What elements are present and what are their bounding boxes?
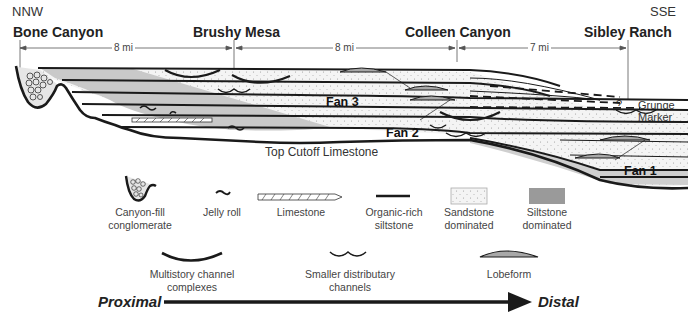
legend-lobeform: Lobeform [476, 268, 542, 281]
canyon-fill-icon [126, 176, 156, 200]
limestone-icon [258, 194, 342, 200]
distance-label-2: 8 mi [333, 42, 356, 53]
grunge-marker-line1: Grunge [638, 99, 675, 111]
legend-canyon-fill-line2: conglomerate [100, 219, 180, 232]
uncertain-mark: ? [616, 98, 622, 110]
location-brushy-mesa: Brushy Mesa [193, 24, 280, 40]
multistory-channel-icon [162, 253, 222, 261]
limestone-bed [132, 118, 212, 122]
distance-label-3: 7 mi [528, 42, 551, 53]
legend-sandstone-line1: Sandstone [434, 206, 504, 219]
direction-right: SSE [650, 4, 676, 19]
grunge-marker-line2: Marker [638, 111, 675, 123]
legend-organic-siltstone: Organic-rich siltstone [356, 206, 432, 232]
legend-siltstone-line1: Siltstone [511, 206, 583, 219]
legend-distributary: Smaller distributary channels [290, 268, 410, 294]
legend-jelly-roll: Jelly roll [192, 206, 252, 219]
legend-sandstone: Sandstone dominated [434, 206, 504, 232]
lobeform-icon [480, 251, 538, 257]
legend-jelly-roll-line1: Jelly roll [192, 206, 252, 219]
top-cutoff-limestone-label: Top Cutoff Limestone [265, 145, 378, 159]
legend-canyon-fill-line1: Canyon-fill [100, 206, 180, 219]
legend-lobeform-line1: Lobeform [476, 268, 542, 281]
legend-limestone-line1: Limestone [266, 206, 336, 219]
legend-multistory: Multistory channel complexes [136, 268, 248, 294]
direction-left: NNW [12, 4, 43, 19]
proximal-label: Proximal [98, 293, 161, 310]
legend-siltstone-line2: dominated [511, 219, 583, 232]
legend-canyon-fill: Canyon-fill conglomerate [100, 206, 180, 232]
legend-limestone: Limestone [266, 206, 336, 219]
legend-distributary-line1: Smaller distributary [290, 268, 410, 281]
proximal-distal-arrow [164, 292, 532, 312]
distance-label-1: 8 mi [112, 42, 135, 53]
sandstone-swatch-icon [451, 188, 487, 204]
legend-distributary-line2: channels [290, 281, 410, 294]
legend-siltstone: Siltstone dominated [511, 206, 583, 232]
grunge-marker-label: Grunge Marker [638, 99, 675, 123]
location-bone-canyon: Bone Canyon [13, 24, 103, 40]
fan2-label: Fan 2 [386, 126, 419, 140]
jelly-roll-icon [216, 191, 230, 194]
location-sibley-ranch: Sibley Ranch [584, 24, 672, 40]
distributary-channel-icon [330, 252, 366, 256]
distal-label: Distal [538, 293, 579, 310]
siltstone-swatch-icon [529, 188, 565, 204]
legend-sandstone-line2: dominated [434, 219, 504, 232]
legend-multistory-line1: Multistory channel [136, 268, 248, 281]
fan3-label: Fan 3 [326, 95, 359, 109]
location-colleen-canyon: Colleen Canyon [405, 24, 511, 40]
fan1-label: Fan 1 [624, 164, 657, 178]
legend-organic-siltstone-line2: siltstone [356, 219, 432, 232]
legend-organic-siltstone-line1: Organic-rich [356, 206, 432, 219]
